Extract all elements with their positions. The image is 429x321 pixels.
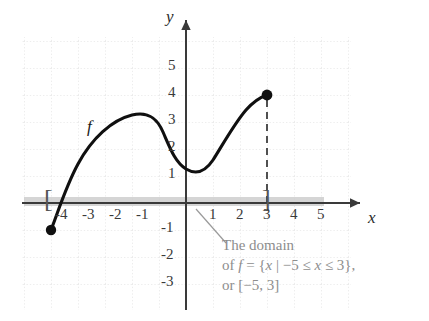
annotation-line-3: or [−5, 3] (222, 276, 427, 296)
y-tick-5: 5 (168, 58, 176, 73)
right-endpoint-dot (262, 90, 273, 101)
left-endpoint-dot (46, 225, 56, 235)
y-tick-neg2: -2 (161, 247, 174, 262)
y-tick-2: 2 (168, 139, 176, 154)
x-tick-2: 2 (236, 207, 244, 222)
x-tick-3: 3 (263, 207, 271, 222)
y-tick-4: 4 (168, 85, 176, 100)
annotation-set-open: = { (242, 257, 265, 273)
domain-shaded-band (24, 197, 324, 206)
domain-left-bracket: [ (44, 186, 53, 212)
annotation-condition-right: ≤ 3}, (321, 257, 355, 273)
y-axis-label: y (166, 8, 174, 25)
domain-annotation: The domain of f = {x | −5 ≤ x ≤ 3}, or [… (222, 236, 427, 296)
y-tick-neg1: -1 (161, 220, 174, 235)
curve-label-f: f (87, 118, 92, 135)
x-tick-1: 1 (209, 207, 217, 222)
x-tick-neg2: -2 (109, 207, 122, 222)
x-tick-neg4: -4 (55, 207, 68, 222)
x-tick-neg1: -1 (136, 207, 149, 222)
x-tick-neg3: -3 (82, 207, 95, 222)
function-graph-figure: y x f [ ] -4 -3 -2 -1 1 2 3 4 5 5 4 3 2 … (0, 0, 429, 321)
annotation-line-1: The domain (222, 236, 427, 256)
annotation-of: of (222, 257, 238, 273)
y-tick-1: 1 (168, 166, 176, 181)
x-tick-5: 5 (317, 207, 325, 222)
annotation-condition-left: | −5 ≤ (272, 257, 314, 273)
x-axis-label: x (368, 209, 376, 226)
annotation-line-2: of f = {x | −5 ≤ x ≤ 3}, (222, 256, 427, 276)
y-tick-3: 3 (168, 112, 176, 127)
x-axis-arrowhead (350, 198, 360, 207)
y-axis-arrowhead (181, 20, 190, 30)
y-tick-neg3: -3 (161, 274, 174, 289)
x-tick-4: 4 (290, 207, 298, 222)
